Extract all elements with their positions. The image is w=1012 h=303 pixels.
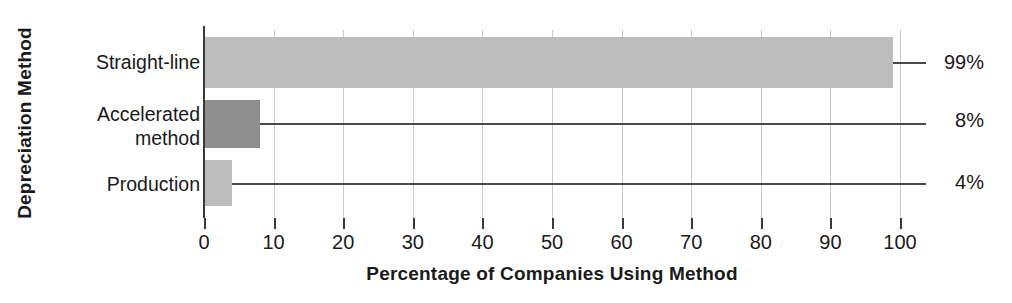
x-tick-30: [413, 218, 415, 229]
x-tick-20: [343, 218, 345, 229]
category-label-straight-line: Straight-line: [44, 50, 200, 74]
x-tick-50: [552, 218, 554, 229]
bar-straight-line: [204, 37, 893, 88]
x-tick-label-20: 20: [313, 231, 373, 254]
value-labels: 99% 8% 4%: [918, 30, 994, 218]
category-label-accelerated-method: Accelerated method: [44, 102, 200, 150]
leader-line-production: [232, 183, 926, 185]
plot-area: [204, 30, 900, 218]
x-tick-90: [830, 218, 832, 229]
x-tick-label-60: 60: [592, 231, 652, 254]
x-tick-label-40: 40: [452, 231, 512, 254]
x-tick-10: [274, 218, 276, 229]
x-tick-label-30: 30: [383, 231, 443, 254]
x-tick-80: [761, 218, 763, 229]
x-tick-label-10: 10: [244, 231, 304, 254]
y-axis-line: [203, 26, 205, 218]
x-tick-0: [204, 218, 206, 229]
x-axis-tick-labels: 0 10 20 30 40 50 60 70 80 90 100: [204, 231, 900, 257]
y-axis-title: Depreciation Method: [8, 8, 42, 238]
category-label-production: Production: [44, 172, 200, 196]
x-tick-label-70: 70: [661, 231, 721, 254]
x-tick-label-90: 90: [800, 231, 860, 254]
x-axis-title: Percentage of Companies Using Method: [204, 263, 900, 285]
bar-production: [204, 160, 232, 206]
leader-line-accelerated-method: [260, 123, 926, 125]
x-tick-label-100: 100: [870, 231, 930, 254]
x-tick-100: [900, 218, 902, 229]
bar-chart: Depreciation Method Straight-line Accele…: [0, 0, 1012, 303]
bar-accelerated-method: [204, 100, 260, 148]
x-axis-ticks: [204, 218, 900, 230]
value-label-production: 4%: [918, 171, 984, 194]
x-tick-label-80: 80: [731, 231, 791, 254]
x-tick-40: [482, 218, 484, 229]
x-tick-60: [622, 218, 624, 229]
y-axis-category-labels: Straight-line Accelerated method Product…: [44, 30, 200, 218]
x-tick-label-0: 0: [174, 231, 234, 254]
value-label-accelerated-method: 8%: [918, 109, 984, 132]
value-label-straight-line: 99%: [918, 51, 984, 74]
x-tick-label-50: 50: [522, 231, 582, 254]
x-tick-70: [691, 218, 693, 229]
